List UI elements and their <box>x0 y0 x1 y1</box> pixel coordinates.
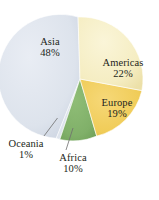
pie-label-europe-value: 19% <box>90 108 144 119</box>
pie-label-africa-value: 10% <box>48 163 98 174</box>
pie-label-asia: Asia 48% <box>22 36 78 59</box>
pie-label-africa: Africa 10% <box>48 152 98 175</box>
pie-chart: Asia 48% Americas 22% Europe 19% Oceania… <box>0 0 159 200</box>
pie-label-oceania: Oceania 1% <box>0 138 53 161</box>
pie-label-oceania-name: Oceania <box>0 138 53 149</box>
pie-label-europe: Europe 19% <box>90 97 144 120</box>
pie-label-africa-name: Africa <box>48 152 98 163</box>
pie-label-americas: Americas 22% <box>90 57 156 80</box>
pie-label-asia-name: Asia <box>22 36 78 47</box>
pie-label-europe-name: Europe <box>90 97 144 108</box>
pie-label-americas-name: Americas <box>90 57 156 68</box>
pie-label-asia-value: 48% <box>22 47 78 58</box>
pie-label-oceania-value: 1% <box>0 149 53 160</box>
pie-label-americas-value: 22% <box>90 68 156 79</box>
